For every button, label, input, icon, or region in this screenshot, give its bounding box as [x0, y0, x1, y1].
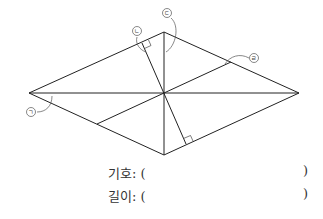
marker-nieun: ㄴ — [134, 27, 140, 34]
length-close-paren: ) — [303, 186, 308, 201]
marker-digeut: ㄷ — [164, 9, 170, 16]
symbol-label: 기호: ( — [108, 163, 146, 182]
right-angle-mark-top — [145, 40, 152, 49]
answer-row-symbol: 기호: ( ) — [108, 163, 308, 181]
right-angle-mark-bottom — [184, 136, 194, 142]
marker-giyeok: ㄱ — [28, 108, 34, 115]
answer-row-length: 길이: ( ) — [108, 186, 308, 204]
angle-arc-giyeok — [37, 96, 52, 112]
marker-rieul: ㄹ — [251, 54, 257, 61]
length-label: 길이: ( — [108, 186, 146, 205]
symbol-close-paren: ) — [303, 163, 308, 178]
